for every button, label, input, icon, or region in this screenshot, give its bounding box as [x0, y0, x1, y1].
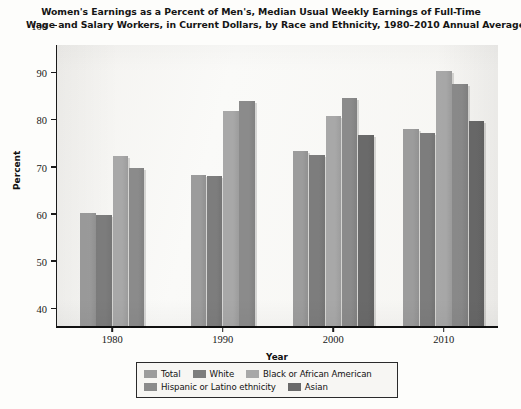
y-axis-tick-label: 60 — [37, 210, 48, 221]
bar-1980-white — [96, 215, 112, 326]
legend-swatch — [144, 370, 157, 378]
chart-page: Women's Earnings as a Percent of Men's, … — [0, 0, 521, 409]
y-axis-tick-label: 40 — [37, 304, 48, 315]
chart-legend: TotalWhiteBlack or African American Hisp… — [136, 362, 398, 398]
legend-label: Total — [161, 369, 181, 379]
x-axis-title: Year — [56, 352, 498, 362]
y-axis-tick-label: 90 — [37, 68, 48, 79]
bar-face — [342, 98, 358, 326]
legend-swatch — [193, 370, 206, 378]
bar-1980-total — [80, 213, 96, 326]
bar-1990-hispanic-or-latino-ethnicity — [239, 101, 255, 326]
legend-row-1: TotalWhiteBlack or African American — [144, 367, 391, 380]
y-axis-tick-mark — [51, 308, 57, 310]
bar-1990-total — [191, 175, 207, 326]
bar-2000-hispanic-or-latino-ethnicity — [342, 98, 358, 326]
bar-face — [452, 84, 468, 326]
bar-face — [113, 156, 129, 326]
y-axis-tick-50: 50 — [37, 252, 58, 270]
bar-2000-black-or-african-american — [326, 116, 342, 326]
bar-1980-black-or-african-american — [113, 156, 129, 326]
x-axis-tick-label-1980: 1980 — [102, 334, 123, 345]
bar-face — [239, 101, 255, 326]
y-axis-tick-mark — [51, 213, 57, 215]
chart-title-line-2: Wage and Salary Workers, in Current Doll… — [26, 19, 496, 32]
bar-face — [223, 111, 239, 326]
y-axis-tick-label: 80 — [37, 115, 48, 126]
x-axis-tick-label-2000: 2000 — [323, 334, 344, 345]
legend-item-asian[interactable]: Asian — [288, 382, 328, 392]
plot-area: 100908070605040 1980199020002010 — [56, 45, 498, 328]
bar-face — [191, 175, 207, 326]
bar-2000-asian — [358, 135, 374, 326]
y-axis-tick-40: 40 — [37, 299, 58, 317]
y-axis-tick-mark — [51, 25, 57, 27]
legend-label: Black or African American — [263, 369, 372, 379]
legend-row-2: Hispanic or Latino ethnicityAsian — [144, 380, 391, 393]
y-axis-tick-label: 50 — [37, 257, 48, 268]
legend-item-white[interactable]: White — [193, 369, 235, 379]
bar-face — [309, 155, 325, 326]
x-axis-tick-label-1990: 1990 — [212, 334, 233, 345]
bar-2010-asian — [469, 121, 485, 326]
bar-face — [80, 213, 96, 326]
y-axis-tick-label: 70 — [37, 163, 48, 174]
y-axis-tick-mark — [51, 119, 57, 121]
legend-swatch — [246, 370, 259, 378]
y-axis-tick-70: 70 — [37, 158, 58, 176]
bar-face — [469, 121, 485, 326]
bar-face — [96, 215, 112, 326]
bar-face — [436, 71, 452, 326]
y-axis-tick-mark — [51, 260, 57, 262]
chart-title-line-1: Women's Earnings as a Percent of Men's, … — [26, 6, 496, 19]
bar-face — [358, 135, 374, 326]
y-axis-tick-100: 100 — [31, 16, 57, 34]
bar-1990-black-or-african-american — [223, 111, 239, 326]
y-axis-tick-80: 80 — [37, 110, 58, 128]
x-axis-tick-label-2010: 2010 — [433, 334, 454, 345]
legend-item-total[interactable]: Total — [144, 369, 181, 379]
legend-item-black-or-african-american[interactable]: Black or African American — [246, 369, 372, 379]
bar-2010-total — [403, 129, 419, 326]
bar-face — [293, 151, 309, 326]
bar-1980-hispanic-or-latino-ethnicity — [129, 168, 145, 326]
legend-label: Hispanic or Latino ethnicity — [161, 382, 276, 392]
bar-2010-black-or-african-american — [436, 71, 452, 326]
bar-2000-total — [293, 151, 309, 326]
bar-2010-hispanic-or-latino-ethnicity — [452, 84, 468, 326]
bar-1990-white — [207, 176, 223, 326]
legend-swatch — [144, 383, 157, 391]
bar-2000-white — [309, 155, 325, 326]
y-axis-tick-mark — [51, 72, 57, 74]
bar-face — [420, 133, 436, 326]
legend-item-hispanic-or-latino-ethnicity[interactable]: Hispanic or Latino ethnicity — [144, 382, 276, 392]
legend-swatch — [288, 383, 301, 391]
bar-face — [326, 116, 342, 326]
bar-face — [403, 129, 419, 326]
bar-face — [207, 176, 223, 326]
legend-label: Asian — [305, 382, 328, 392]
bar-2010-white — [420, 133, 436, 326]
y-axis-tick-label: 100 — [31, 21, 47, 32]
y-axis-tick-60: 60 — [37, 205, 58, 223]
chart-title: Women's Earnings as a Percent of Men's, … — [26, 6, 496, 31]
legend-label: White — [210, 369, 235, 379]
y-axis-tick-mark — [51, 166, 57, 168]
bar-face — [129, 168, 145, 326]
y-axis-tick-90: 90 — [37, 63, 58, 81]
y-axis-title: Percent — [12, 151, 22, 190]
